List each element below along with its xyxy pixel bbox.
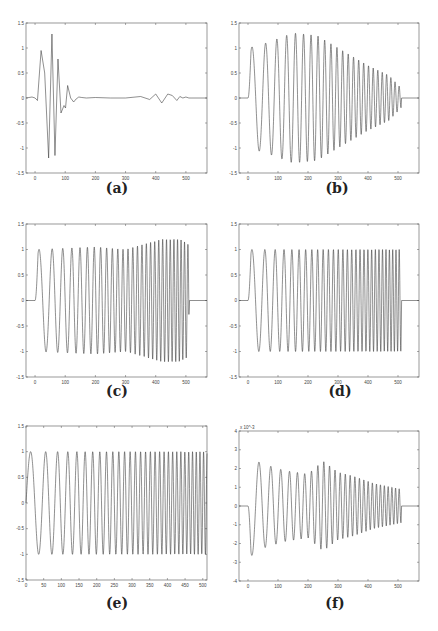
- caption-c: (c): [87, 383, 147, 399]
- line-chart-f: 0100200300400500-4-3-2-101234x 10^-3: [0, 0, 438, 631]
- x-tick-label: 300: [334, 584, 342, 589]
- x-tick-label: 500: [394, 584, 402, 589]
- x-tick-label: 0: [247, 584, 250, 589]
- caption-f: (f): [305, 595, 365, 611]
- caption-d: (d): [310, 383, 370, 399]
- y-tick-label: -3: [233, 560, 237, 565]
- caption-b: (b): [307, 180, 367, 196]
- y-tick-label: -4: [233, 579, 237, 584]
- waveform-line: [239, 462, 419, 556]
- y-tick-label: 4: [234, 429, 237, 434]
- x-tick-label: 400: [364, 584, 372, 589]
- y-tick-label: 1: [234, 485, 237, 490]
- axes-frame: [239, 431, 419, 581]
- y-tick-label: 3: [234, 447, 237, 452]
- y-exponent-label: x 10^-3: [240, 425, 255, 430]
- x-tick-label: 100: [274, 584, 282, 589]
- y-tick-label: -1: [233, 522, 237, 527]
- y-tick-label: 2: [234, 466, 237, 471]
- y-tick-label: -2: [233, 541, 237, 546]
- y-tick-label: 0: [234, 504, 237, 509]
- x-tick-label: 200: [304, 584, 312, 589]
- caption-e: (e): [87, 595, 147, 611]
- caption-a: (a): [87, 180, 147, 196]
